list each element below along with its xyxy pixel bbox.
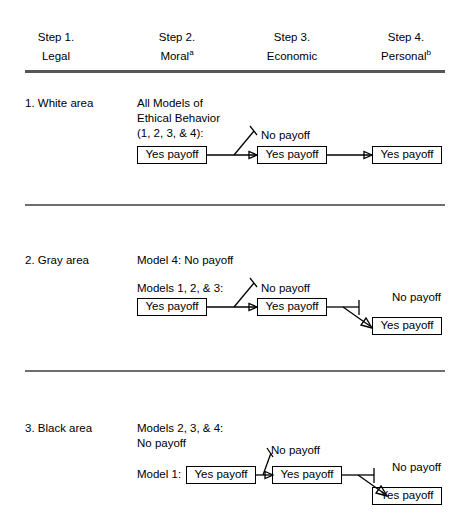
white-area-node-moral: Yes payoff: [257, 146, 327, 164]
column-header-step-3: Step 3.: [238, 28, 346, 47]
gray-area-node-moral: Yes payoff: [257, 298, 327, 316]
gray-area-branch-label-no-payoff-2: No payoff: [392, 290, 441, 305]
white-area-connector-legal-to-moral: [207, 126, 261, 168]
column-header-step-1: Step 1.: [2, 28, 110, 47]
column-header-name-legal: Legal: [2, 47, 110, 66]
gray-area-connector-moral-to-economic: [327, 298, 377, 336]
column-header-row: Step 1. Legal Step 2. Morala Step 3. Eco…: [0, 28, 465, 70]
section-divider-rule-1: [25, 204, 445, 206]
black-area-branch-label-no-payoff-2: No payoff: [392, 460, 441, 475]
header-divider-rule: [25, 70, 445, 73]
column-header-name-economic: Economic: [238, 47, 346, 66]
section-label-gray-area: 2. Gray area: [25, 253, 89, 268]
column-header-name-moral: Morala: [123, 47, 231, 66]
footnote-marker-a: a: [189, 48, 193, 57]
gray-area-branch-label-no-payoff-1: No payoff: [261, 281, 310, 296]
column-header-step-2: Step 2.: [123, 28, 231, 47]
white-area-branch-label-no-payoff: No payoff: [261, 128, 310, 143]
gray-area-intro-line-1: Model 4: No payoff: [137, 253, 233, 268]
section-label-black-area: 3. Black area: [25, 421, 92, 436]
black-area-intro-line-2: No payoff: [137, 436, 186, 451]
white-area-intro-line-2: Ethical Behavior: [137, 111, 220, 126]
black-area-node-legal: Yes payoff: [186, 466, 256, 484]
column-header-economic: Step 3. Economic: [238, 28, 346, 66]
gray-area-node-legal: Yes payoff: [137, 298, 207, 316]
gray-area-node-economic: Yes payoff: [372, 317, 442, 335]
black-area-node-prefix: Model 1:: [137, 467, 181, 482]
white-area-connector-moral-to-economic: [327, 146, 372, 166]
figure-canvas: Step 1. Legal Step 2. Morala Step 3. Eco…: [0, 0, 465, 520]
black-area-branch-label-no-payoff-1: No payoff: [271, 443, 320, 458]
white-area-intro-line-3: (1, 2, 3, & 4):: [137, 126, 203, 141]
black-area-node-moral: Yes payoff: [272, 466, 342, 484]
gray-area-connector-legal-to-moral: [207, 278, 261, 320]
section-divider-rule-2: [25, 370, 445, 372]
black-area-connector-moral-to-economic: [342, 466, 392, 504]
black-area-intro-line-1: Models 2, 3, & 4:: [137, 421, 223, 436]
column-header-moral: Step 2. Morala: [123, 28, 231, 66]
white-area-node-economic: Yes payoff: [372, 146, 442, 164]
column-header-personal: Step 4. Personalb: [352, 28, 460, 66]
black-area-connector-legal-to-moral: [256, 446, 274, 482]
white-area-node-legal: Yes payoff: [137, 146, 207, 164]
column-header-name-personal: Personalb: [352, 47, 460, 66]
footnote-marker-b: b: [426, 48, 430, 57]
white-area-intro-line-1: All Models of: [137, 96, 203, 111]
column-header-legal: Step 1. Legal: [2, 28, 110, 66]
section-label-white-area: 1. White area: [25, 96, 93, 111]
column-header-step-4: Step 4.: [352, 28, 460, 47]
